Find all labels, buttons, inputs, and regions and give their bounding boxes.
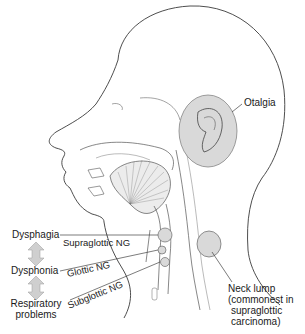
dysphagia-label: Dysphagia	[12, 229, 59, 240]
dysphonia-label: Dysphonia	[11, 265, 58, 276]
double-arrow-icon	[28, 242, 44, 266]
supraglottic-site	[158, 228, 172, 242]
glottic-site	[158, 246, 166, 254]
otalgia-label: Otalgia	[244, 97, 276, 108]
subglottic-site	[161, 258, 170, 267]
tongue	[110, 161, 170, 213]
otalgia-area	[179, 95, 237, 167]
double-arrow-icon	[28, 276, 44, 300]
neck-lump-label: Neck lump (commonest in supraglottic car…	[228, 283, 294, 327]
neck-lump-area	[197, 231, 221, 257]
face-profile	[49, 60, 118, 222]
supraglottic-label: Supraglottic NG	[63, 237, 130, 248]
respiratory-problems-label: Respiratory problems	[6, 298, 66, 320]
